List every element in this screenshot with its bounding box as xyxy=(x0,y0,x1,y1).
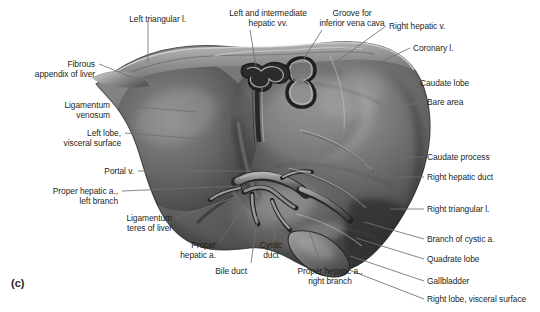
label-caudate-lobe: Caudate lobe xyxy=(420,78,469,88)
label-left-lobe-visceral-surface: Left lobe, visceral surface xyxy=(64,128,121,148)
label-quadrate-lobe: Quadrate lobe xyxy=(427,254,479,264)
label-proper-hepatic-a-right-branch: Proper hepatic a., right branch xyxy=(297,266,362,286)
label-groove-for-inferior-vena-cava: Groove for inferior vena cava xyxy=(319,8,384,28)
label-bile-duct: Bile duct xyxy=(215,266,247,276)
label-right-hepatic-v: Right hepatic v. xyxy=(389,21,445,31)
label-right-triangular-l: Right triangular l. xyxy=(427,204,489,214)
label-right-lobe-visceral-surface: Right lobe, visceral surface xyxy=(427,294,526,304)
figure-panel: Left triangular l.Left and intermediate … xyxy=(0,0,540,312)
label-proper-hepatic-a-left-branch: Proper hepatic a., left branch xyxy=(53,186,118,206)
label-gallbladder: Gallbladder xyxy=(427,276,469,286)
label-ligamentum-teres-of-liver: Ligamentum teres of liver xyxy=(126,213,172,233)
label-branch-of-cystic-a: Branch of cystic a. xyxy=(427,234,494,244)
label-right-hepatic-duct: Right hepatic duct xyxy=(427,172,493,182)
label-left-and-intermediate-hepatic-vv: Left and intermediate hepatic vv. xyxy=(229,8,307,28)
label-bare-area: Bare area xyxy=(427,97,463,107)
label-ligamentum-venosum: Ligamentum venosum xyxy=(64,100,110,120)
label-portal-v: Portal v. xyxy=(104,166,134,176)
label-proper-hepatic-a: Proper hepatic a. xyxy=(180,240,216,260)
label-caudate-process: Caudate process xyxy=(427,152,490,162)
label-left-triangular-l: Left triangular l. xyxy=(129,14,186,24)
label-fibrous-appendix-of-liver: Fibrous appendix of liver xyxy=(35,59,95,79)
figure-caption-letter: (c) xyxy=(11,277,24,289)
label-coronary-l: Coronary l. xyxy=(413,43,453,53)
label-cystic-duct: Cystic duct xyxy=(260,240,283,260)
